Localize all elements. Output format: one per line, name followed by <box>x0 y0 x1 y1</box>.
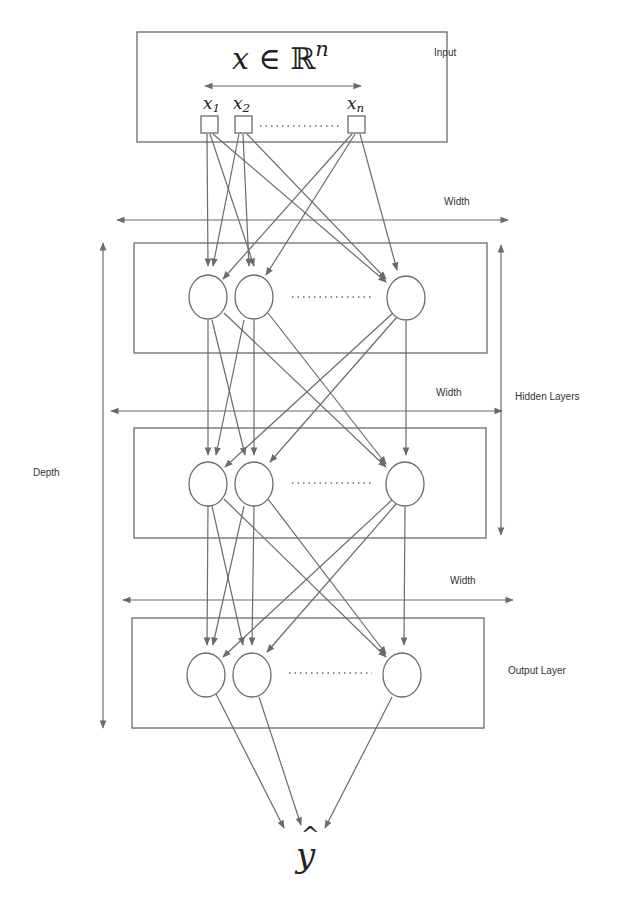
formula-element-of: ∈ <box>258 41 280 76</box>
hidden2-neuron-1 <box>189 462 227 506</box>
input-space-formula: x ∈ ℝn <box>232 39 329 74</box>
yhat-hat: ^ <box>301 824 319 846</box>
input-node-x1 <box>201 116 218 133</box>
neural-network-diagram: x ∈ ℝn x1 x2 xn Input Width Width Hidden… <box>0 0 621 922</box>
input-label: Input <box>434 48 456 58</box>
hidden2-neuron-n <box>386 462 424 506</box>
formula-x: x <box>232 41 249 76</box>
hidden-layer-1-box <box>134 243 487 353</box>
hidden2-neuron-2 <box>235 462 273 506</box>
output-prediction-yhat: ^ y <box>296 838 315 872</box>
input-node-xn <box>348 116 365 133</box>
output-layer-label: Output Layer <box>508 666 566 676</box>
input-label-x1: x1 <box>203 95 220 115</box>
output-neuron-n <box>383 653 421 697</box>
input-label-xn: xn <box>347 95 364 115</box>
width-label-3: Width <box>450 576 476 586</box>
hidden-layers-label: Hidden Layers <box>515 392 579 402</box>
connections-input-hidden1 <box>207 134 397 282</box>
width-label-1: Width <box>444 197 470 207</box>
connections-hidden2-output <box>207 499 405 657</box>
output-neuron-2 <box>233 653 271 697</box>
input-label-x2: x2 <box>233 95 250 115</box>
output-layer-box <box>132 618 484 728</box>
output-neuron-1 <box>187 653 225 697</box>
input-node-x2 <box>235 116 252 133</box>
depth-label: Depth <box>33 468 60 478</box>
hidden1-neuron-n <box>387 276 425 320</box>
formula-exponent: n <box>315 37 329 61</box>
width-label-2: Width <box>436 388 462 398</box>
connections-output-yhat <box>216 694 392 828</box>
diagram-canvas <box>0 0 621 922</box>
hidden1-neuron-2 <box>235 275 273 319</box>
hidden1-neuron-1 <box>189 275 227 319</box>
formula-reals: ℝ <box>290 41 315 76</box>
connections-hidden1-hidden2 <box>208 313 406 467</box>
